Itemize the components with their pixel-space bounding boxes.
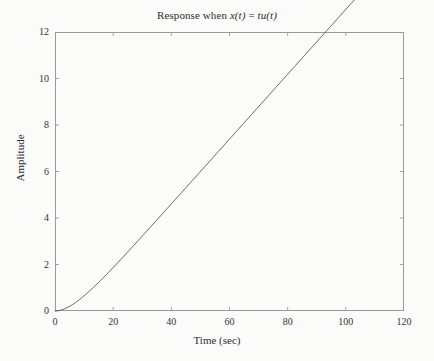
x-tick-label: 80 — [268, 316, 308, 327]
chart-title-variable-tu: tu — [258, 9, 267, 21]
x-axis-title: Time (sec) — [0, 334, 434, 346]
x-tick-label: 60 — [210, 316, 250, 327]
data-series-line — [55, 0, 369, 311]
x-tick-label: 120 — [384, 316, 424, 327]
chart-title-prefix: Response when — [157, 9, 230, 21]
y-tick-label: 0 — [19, 305, 49, 316]
chart-title-paren-t-second: (t) — [266, 9, 277, 21]
x-tick-label: 0 — [35, 316, 75, 327]
chart-title: Response when x(t) = tu(t) — [0, 9, 434, 21]
chart-title-paren-t-first: (t) — [235, 9, 246, 21]
y-tick-label: 10 — [19, 73, 49, 84]
chart-figure: Response when x(t) = tu(t) Time (sec) Am… — [0, 0, 434, 361]
chart-title-equals: = — [246, 9, 258, 21]
y-tick-label: 6 — [19, 166, 49, 177]
y-tick-label: 4 — [19, 212, 49, 223]
y-tick-label: 8 — [19, 119, 49, 130]
x-tick-label: 20 — [93, 316, 133, 327]
y-tick-label: 12 — [19, 26, 49, 37]
plot-canvas — [55, 32, 404, 311]
y-axis-tick-marks — [55, 79, 404, 265]
x-tick-label: 40 — [151, 316, 191, 327]
x-axis-tick-marks — [113, 32, 346, 311]
x-tick-label: 100 — [326, 316, 366, 327]
y-tick-label: 2 — [19, 259, 49, 270]
